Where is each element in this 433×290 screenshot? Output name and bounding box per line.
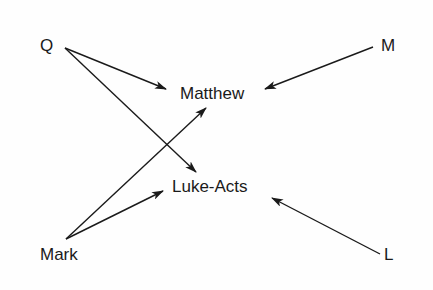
edge-q-to-lukeacts <box>65 48 196 172</box>
node-l: L <box>384 246 393 263</box>
edge-mark-to-lukeacts <box>66 191 163 239</box>
synoptic-sources-diagram: Q M Mark L Matthew Luke-Acts <box>0 0 433 290</box>
node-q: Q <box>40 37 53 54</box>
edge-l-to-lukeacts <box>272 198 380 254</box>
edge-mark-to-matthew <box>66 108 206 239</box>
node-mark: Mark <box>40 246 78 263</box>
node-luke-acts: Luke-Acts <box>172 178 248 195</box>
node-m: M <box>381 37 395 54</box>
edge-q-to-matthew <box>65 48 166 89</box>
node-matthew: Matthew <box>180 85 244 102</box>
edge-m-to-matthew <box>265 47 373 89</box>
